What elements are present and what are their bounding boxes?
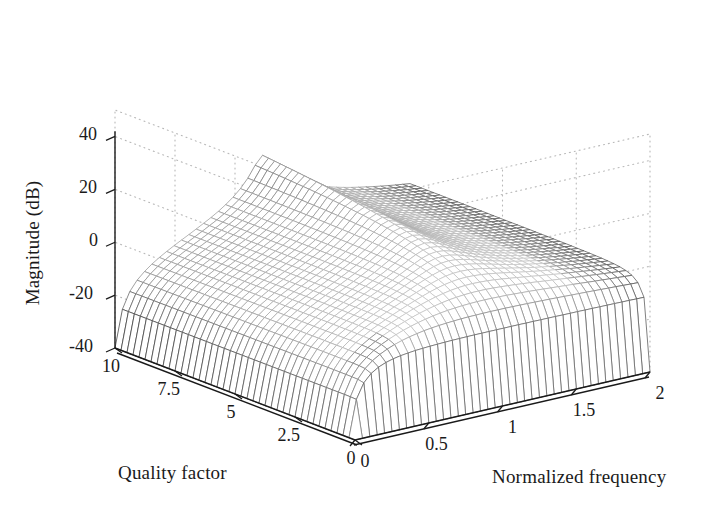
f-tick-0: 0 — [361, 451, 370, 472]
f-tick-2: 2 — [656, 383, 665, 404]
f-tick-0-5: 0.5 — [425, 434, 448, 455]
z-tick-neg40: -40 — [69, 336, 93, 357]
f-tick-1-5: 1.5 — [573, 400, 596, 421]
q-tick-10: 10 — [102, 356, 120, 377]
y-axis-label: Normalized frequency — [492, 466, 666, 488]
q-tick-5: 5 — [227, 402, 236, 423]
figure-3d-surface-plot: Magnitude (dB) Quality factor Normalized… — [0, 0, 720, 525]
surface-plot-canvas — [0, 0, 720, 525]
q-tick-2-5: 2.5 — [278, 425, 301, 446]
z-tick-20: 20 — [79, 177, 97, 198]
z-tick-0: 0 — [89, 230, 98, 251]
x-axis-label: Quality factor — [118, 462, 227, 484]
q-tick-7-5: 7.5 — [158, 379, 181, 400]
q-tick-0: 0 — [347, 448, 356, 469]
z-tick-40: 40 — [79, 124, 97, 145]
z-axis-label: Magnitude (dB) — [22, 163, 44, 323]
f-tick-1: 1 — [508, 417, 517, 438]
z-tick-neg20: -20 — [69, 283, 93, 304]
